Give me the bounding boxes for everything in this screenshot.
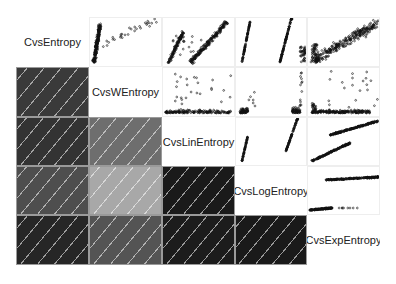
scatter-panel — [307, 166, 380, 215]
scatter-points — [236, 18, 306, 66]
shade-cell — [235, 215, 307, 265]
scatter-panel — [235, 17, 307, 67]
shade-cell — [16, 166, 89, 215]
scatter-points — [308, 118, 379, 165]
variable-label: CvsWEntropy — [92, 86, 159, 98]
shade-cell — [16, 215, 89, 265]
correlogram: CvsEntropy CvsWEntropy CvsLinEntropy Cvs… — [16, 17, 380, 265]
scatter-panel — [162, 67, 235, 117]
scatter-points — [236, 118, 306, 165]
scatter-panel — [307, 67, 380, 117]
shade-cell — [162, 215, 235, 265]
variable-label: CvsExpEntropy — [307, 234, 380, 246]
scatter-points — [163, 68, 234, 116]
scatter-points — [236, 68, 306, 116]
shade-cell — [89, 117, 162, 166]
scatter-points — [308, 68, 379, 116]
variable-label: CvsEntropy — [24, 36, 81, 48]
diag-cvsentropy: CvsEntropy — [16, 17, 89, 67]
shade-cell — [89, 166, 162, 215]
scatter-panel — [235, 117, 307, 166]
variable-label: CvsLogEntropy — [235, 185, 307, 197]
scatter-panel — [89, 17, 162, 67]
shade-cell — [162, 166, 235, 215]
shade-cell — [16, 117, 89, 166]
shade-cell — [89, 215, 162, 265]
scatter-points — [90, 18, 161, 66]
scatter-panel — [307, 17, 380, 67]
diag-cvswentropy: CvsWEntropy — [89, 67, 162, 117]
diag-cvslogentropy: CvsLogEntropy — [235, 166, 307, 215]
variable-label: CvsLinEntropy — [163, 136, 235, 148]
shade-cell — [16, 67, 89, 117]
scatter-points — [308, 167, 379, 214]
scatter-panel — [235, 67, 307, 117]
diag-cvslinentropy: CvsLinEntropy — [162, 117, 235, 166]
scatter-points — [163, 18, 234, 66]
scatter-points — [308, 18, 379, 66]
diag-cvsexpentropy: CvsExpEntropy — [307, 215, 380, 265]
scatter-panel — [307, 117, 380, 166]
scatter-panel — [162, 17, 235, 67]
